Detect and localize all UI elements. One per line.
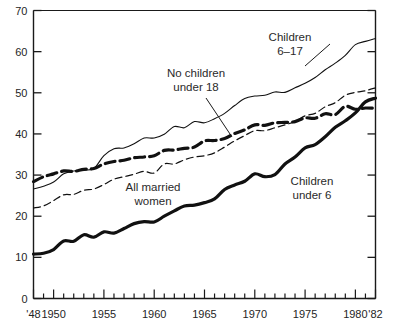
annotation-all-married-women-line2: women bbox=[133, 195, 171, 207]
y-tick-label: 60 bbox=[15, 46, 27, 58]
y-tick-label: 30 bbox=[15, 169, 27, 181]
annotation-children-under-6-line1: Children bbox=[291, 175, 334, 187]
annotation-no-children-under-18-line1: No children bbox=[167, 67, 225, 79]
x-tick-label: 1970 bbox=[243, 308, 267, 320]
chart-background bbox=[0, 0, 394, 325]
x-tick-label: 1965 bbox=[192, 308, 216, 320]
x-tick-label: 1960 bbox=[142, 308, 166, 320]
annotation-children-under-6-line2: under 6 bbox=[292, 189, 331, 201]
annotation-all-married-women-line1: All married bbox=[126, 181, 181, 193]
x-tick-label: 1955 bbox=[92, 308, 116, 320]
y-tick-label: 10 bbox=[15, 251, 27, 263]
x-tick-label: '82 bbox=[368, 308, 382, 320]
y-tick-label: 40 bbox=[15, 128, 27, 140]
y-tick-label: 20 bbox=[15, 210, 27, 222]
x-tick-label: 1950 bbox=[41, 308, 65, 320]
line-chart: 010203040506070 '48195019551960196519701… bbox=[0, 0, 394, 325]
annotation-children-6-17-line2: 6–17 bbox=[277, 45, 303, 57]
annotation-children-6-17-line1: Children bbox=[269, 31, 312, 43]
y-tick-label: 0 bbox=[21, 293, 27, 305]
x-tick-label: 1975 bbox=[293, 308, 317, 320]
y-tick-label: 70 bbox=[15, 5, 27, 17]
chart-container: 010203040506070 '48195019551960196519701… bbox=[0, 0, 394, 325]
x-tick-label: 1980 bbox=[343, 308, 367, 320]
annotation-no-children-under-18-line2: under 18 bbox=[173, 81, 218, 93]
y-tick-label: 50 bbox=[15, 87, 27, 99]
x-tick-label: '48 bbox=[26, 308, 40, 320]
